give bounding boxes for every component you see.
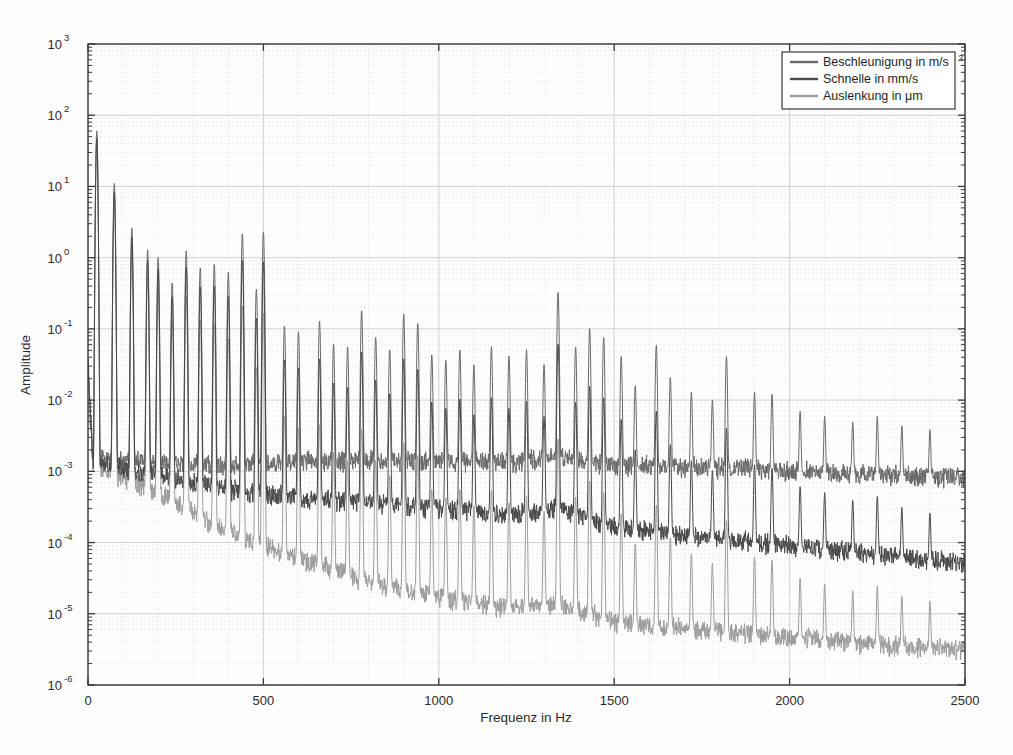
chart-legend[interactable]: Beschleunigung in m/s2Schnelle in mm/sAu… — [782, 52, 963, 109]
x-tick-label: 2000 — [775, 693, 804, 708]
legend-label-2: Auslenkung in μm — [823, 89, 923, 103]
svg-text:10: 10 — [48, 393, 62, 408]
x-axis-title: Frequenz in Hz — [480, 710, 572, 725]
legend-label-0: Beschleunigung in m/s — [823, 55, 949, 69]
svg-text:10: 10 — [48, 678, 62, 693]
svg-text:-1: -1 — [64, 317, 72, 328]
svg-text:10: 10 — [48, 108, 62, 123]
svg-text:10: 10 — [48, 322, 62, 337]
x-tick-label: 1500 — [600, 693, 629, 708]
svg-text:1: 1 — [64, 174, 69, 185]
svg-text:10: 10 — [48, 536, 62, 551]
svg-text:10: 10 — [48, 607, 62, 622]
svg-text:-5: -5 — [64, 602, 72, 613]
svg-text:-3: -3 — [64, 459, 72, 470]
svg-text:-4: -4 — [64, 531, 72, 542]
svg-text:0: 0 — [64, 246, 69, 257]
svg-text:-2: -2 — [64, 388, 72, 399]
legend-label-exponent-0: 2 — [958, 53, 963, 63]
svg-text:10: 10 — [48, 37, 62, 52]
y-axis-title: Amplitude — [18, 335, 33, 395]
svg-text:10: 10 — [48, 464, 62, 479]
svg-text:10: 10 — [48, 179, 62, 194]
svg-text:3: 3 — [64, 32, 69, 43]
x-tick-label: 1000 — [424, 693, 453, 708]
figure-canvas: 10-610-510-410-310-210-1100101102103 050… — [0, 0, 1013, 755]
x-tick-label: 500 — [253, 693, 275, 708]
x-tick-label: 2500 — [951, 693, 980, 708]
svg-text:-6: -6 — [64, 673, 72, 684]
spectrum-chart: 10-610-510-410-310-210-1100101102103 050… — [0, 0, 1013, 755]
svg-text:2: 2 — [64, 103, 69, 114]
legend-label-1: Schnelle in mm/s — [823, 72, 918, 86]
x-tick-label: 0 — [84, 693, 91, 708]
svg-text:10: 10 — [48, 251, 62, 266]
